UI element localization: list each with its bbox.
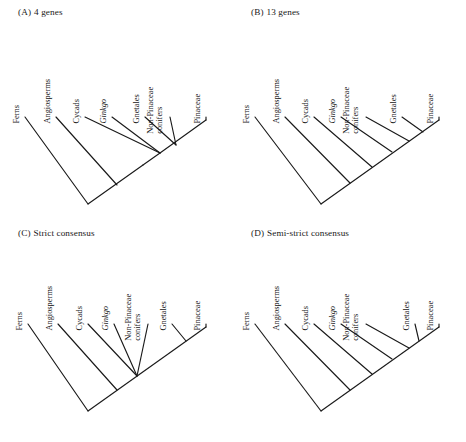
tip-label-ferns: Ferns	[243, 105, 252, 124]
tip-label-gnetales: Gnetales	[133, 94, 142, 123]
branch-root	[88, 165, 143, 204]
tip-label-angiosperms: Angiosperms	[46, 286, 55, 331]
tip-label-ferns: Ferns	[243, 312, 252, 331]
tip-label-gnetales: Gnetales	[403, 301, 412, 330]
tip-label-line-2: conifers	[352, 87, 361, 134]
branch-main-spine	[321, 120, 439, 204]
branch-ferns	[255, 324, 321, 411]
branch-ferns	[255, 117, 321, 204]
tip-label-line-2: conifers	[156, 87, 165, 134]
branch-main-spine	[88, 327, 206, 411]
branch-angiosperms	[285, 324, 350, 390]
branch-nonpinaceae	[366, 117, 409, 141]
tip-label-ginkgo: Ginkgo	[102, 306, 111, 331]
panel-c-tree	[0, 221, 233, 442]
branch-gnetales	[415, 324, 419, 341]
tip-label-cycads: Cycads	[76, 306, 85, 331]
tip-label-non-pinaceae-conifers: Non-Pinaceaeconifers	[342, 294, 361, 341]
tip-label-line-1: Non-Pinaceae	[124, 294, 133, 341]
tip-label-angiosperms: Angiosperms	[273, 286, 282, 331]
tip-label-ferns: Ferns	[16, 312, 25, 331]
tip-label-pinaceae: Pinaceae	[427, 301, 436, 331]
tip-label-pinaceae: Pinaceae	[194, 94, 203, 124]
tip-label-line-2: conifers	[134, 294, 143, 341]
tip-label-non-pinaceae-conifers: Non-Pinaceaeconifers	[146, 87, 165, 134]
tip-label-ferns: Ferns	[13, 105, 22, 124]
tip-label-non-pinaceae-conifers: Non-Pinaceaeconifers	[342, 87, 361, 134]
tip-label-gnetales: Gnetales	[160, 301, 169, 330]
branch-angiosperms	[285, 117, 350, 183]
tip-label-pinaceae: Pinaceae	[194, 301, 203, 331]
panel-d: (D)Semi-strict consensus Ferns Angiosper…	[233, 221, 466, 442]
tip-label-ginkgo: Ginkgo	[329, 99, 338, 124]
tip-label-non-pinaceae-conifers: Non-Pinaceaeconifers	[124, 294, 143, 341]
tip-label-ginkgo: Ginkgo	[100, 99, 109, 124]
tip-label-line-1: Non-Pinaceae	[342, 87, 351, 134]
branch-spine-1	[143, 153, 160, 165]
panel-c: (C)Strict consensus Ferns Angiosperms Cy…	[0, 221, 233, 442]
phylogenetic-figure: (A)4 genes	[0, 0, 466, 442]
branch-angiosperms	[56, 117, 117, 185]
tip-label-line-2: conifers	[352, 294, 361, 341]
tip-label-line-1: Non-Pinaceae	[146, 87, 155, 134]
branch-gnetales	[172, 324, 186, 341]
tip-label-gnetales: Gnetales	[390, 94, 399, 123]
tip-label-cycads: Cycads	[302, 306, 311, 331]
panel-b: (B)13 genes Ferns Angiosperms Cycads Gin…	[233, 0, 466, 221]
tip-label-pinaceae: Pinaceae	[427, 94, 436, 124]
tip-label-ginkgo: Ginkgo	[329, 306, 338, 331]
tip-label-cycads: Cycads	[73, 99, 82, 124]
panel-a: (A)4 genes	[0, 0, 233, 221]
branch-ferns	[28, 324, 88, 411]
branch-ferns	[25, 117, 88, 204]
tip-label-angiosperms: Angiosperms	[273, 79, 282, 124]
tip-label-line-1: Non-Pinaceae	[342, 294, 351, 341]
tip-label-cycads: Cycads	[302, 99, 311, 124]
tip-label-angiosperms: Angiosperms	[44, 79, 53, 124]
branch-gnetales	[402, 117, 423, 132]
branch-main-spine	[321, 327, 439, 411]
